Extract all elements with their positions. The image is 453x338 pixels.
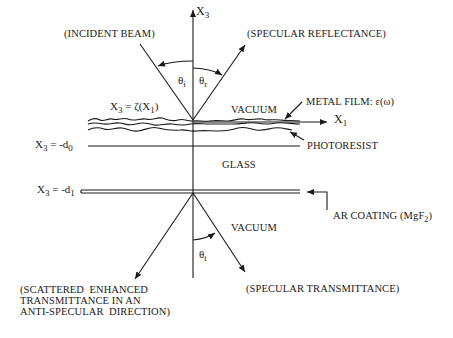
theta-t-arc: [193, 233, 215, 240]
x3-axis-label: X3: [196, 4, 209, 20]
d0-rhs: = -d: [47, 138, 68, 150]
glass-label: GLASS: [222, 159, 256, 171]
theta-r-label: θr: [199, 74, 207, 89]
light-scattering-diagram: X3 X1 (INCIDENT BEAM) (SPECULAR REFLECTA…: [0, 0, 453, 338]
vacuum-top-label: VACUUM: [231, 104, 277, 116]
x1-label-text: X: [334, 112, 343, 126]
d1-rhs: = -d: [49, 183, 70, 195]
scattered-enhanced-label: (SCATTERED ENHANCED TRANSMITTANCE IN AN …: [20, 284, 170, 317]
surface-lhs: X: [110, 100, 118, 112]
theta-i-arc: [158, 61, 193, 66]
photoresist-leader: [290, 132, 304, 140]
ar-coating-close: ): [428, 210, 432, 221]
d1-equation-label: X3 = -d1: [37, 183, 75, 198]
surface-equation-label: X3 = ζ(X1): [110, 100, 159, 115]
x3-label-text: X: [196, 4, 205, 18]
x3-label-sub: 3: [205, 10, 210, 20]
x1-label-sub: 1: [343, 118, 348, 128]
photoresist-label: PHOTORESIST: [307, 140, 378, 152]
d1-rhs-sub: 1: [70, 188, 75, 198]
x1-axis-label: X1: [334, 112, 347, 128]
ar-coating-leader: [307, 192, 327, 210]
metal-film-label: METAL FILM: ε(ω): [306, 96, 394, 108]
d0-lhs: X: [35, 138, 43, 150]
specular-transmittance-label: (SPECULAR TRANSMITTANCE): [246, 283, 399, 295]
surface-close: ): [155, 100, 159, 112]
metal-film-leader: [285, 102, 302, 119]
specular-reflectance-label: (SPECULAR REFLECTANCE): [247, 28, 386, 40]
theta-i-sub: i: [183, 79, 186, 89]
metal-film-mid: [88, 123, 300, 125]
theta-i-label: θi: [178, 74, 186, 89]
ar-coating-label: AR COATING (MgF2): [333, 210, 432, 226]
anti-specular-transmitted-beam: [135, 193, 193, 279]
d1-lhs: X: [37, 183, 45, 195]
ar-coating-text: AR COATING (MgF: [333, 210, 424, 221]
theta-r-sub: r: [204, 79, 207, 89]
d0-rhs-sub: 0: [68, 143, 73, 153]
d0-equation-label: X3 = -d0: [35, 138, 73, 153]
theta-r-arc: [193, 68, 222, 75]
theta-t-sub: t: [204, 253, 207, 263]
incident-beam-label: (INCIDENT BEAM): [64, 28, 155, 40]
vacuum-bottom-label: VACUUM: [231, 222, 277, 234]
photoresist-line: [88, 127, 292, 131]
theta-t-label: θt: [199, 248, 207, 263]
surface-rhs: = ζ(X: [122, 100, 150, 112]
